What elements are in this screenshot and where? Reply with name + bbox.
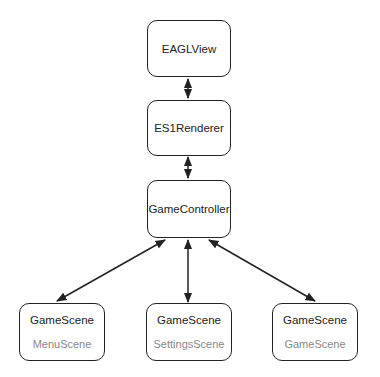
node-gamescene-menu[interactable]: GameScene MenuScene <box>19 303 105 361</box>
node-gamecontroller[interactable]: GameController <box>147 180 231 238</box>
node-title: EAGLView <box>162 43 217 55</box>
node-gamescene-game[interactable]: GameScene GameScene <box>272 303 358 361</box>
node-subtitle: GameScene <box>284 338 345 350</box>
node-title: GameController <box>148 203 229 215</box>
node-subtitle: MenuScene <box>33 338 92 350</box>
edge-controller-scene1 <box>57 240 165 301</box>
node-es1renderer[interactable]: ES1Renderer <box>147 100 231 156</box>
node-eaglview[interactable]: EAGLView <box>147 20 231 77</box>
node-title: GameScene <box>157 314 221 326</box>
edge-controller-scene3 <box>209 240 315 301</box>
node-subtitle: SettingsScene <box>154 338 225 350</box>
node-title: GameScene <box>283 314 347 326</box>
node-title: ES1Renderer <box>154 122 224 134</box>
node-title: GameScene <box>30 314 94 326</box>
node-gamescene-settings[interactable]: GameScene SettingsScene <box>146 303 232 361</box>
